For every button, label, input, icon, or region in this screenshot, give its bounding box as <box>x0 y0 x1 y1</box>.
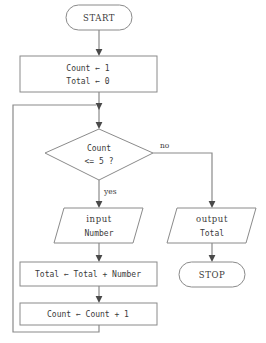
node-start: START <box>66 5 132 30</box>
node-init: Count ← 1 Total ← 0 <box>20 56 157 92</box>
connector-decision-yes-to-input <box>96 180 103 208</box>
connector-start-to-init <box>96 30 103 56</box>
connector-input-to-accumulate <box>96 243 103 262</box>
node-decision-line1: Count <box>87 144 111 153</box>
node-output-line1: output <box>196 214 228 224</box>
node-input-line2: Number <box>85 229 114 238</box>
node-input-line1: input <box>86 214 112 224</box>
node-accumulate: Total ← Total + Number <box>20 262 157 286</box>
node-accumulate-line1: Total ← Total + Number <box>35 270 141 279</box>
node-increment: Count ← Count + 1 <box>20 303 157 325</box>
node-output-line2: Total <box>200 229 224 238</box>
connector-loopback-arrow <box>96 103 103 110</box>
connector-init-to-decision <box>96 92 103 129</box>
connector-output-to-stop <box>209 243 216 262</box>
node-stop-label: STOP <box>199 270 226 280</box>
node-stop: STOP <box>179 262 245 287</box>
branch-label-yes: yes <box>103 187 117 196</box>
node-output: output Total <box>167 208 256 243</box>
connector-decision-no-to-output <box>153 153 215 208</box>
node-init-line2: Total ← 0 <box>66 77 110 86</box>
flowchart-canvas: START Count ← 1 Total ← 0 Count <= 5 ? n… <box>0 0 266 343</box>
node-input: input Number <box>54 208 143 243</box>
node-init-line1: Count ← 1 <box>66 64 110 73</box>
flowchart-svg: START Count ← 1 Total ← 0 Count <= 5 ? n… <box>0 0 266 343</box>
node-increment-line1: Count ← Count + 1 <box>47 310 129 319</box>
node-decision: Count <= 5 ? <box>45 129 153 180</box>
node-start-label: START <box>83 13 115 23</box>
connector-accumulate-to-increment <box>96 286 103 303</box>
node-decision-line2: <= 5 ? <box>85 157 114 166</box>
branch-label-no: no <box>160 141 170 150</box>
